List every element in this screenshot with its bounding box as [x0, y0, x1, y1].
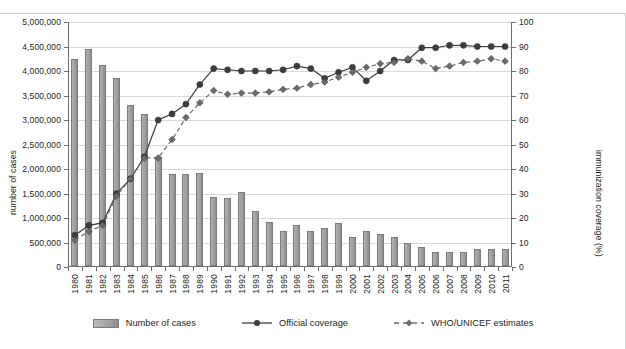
- x-tick: [346, 267, 347, 271]
- x-tick: [124, 267, 125, 271]
- data-point-circle: [308, 65, 314, 71]
- legend-label-official: Official coverage: [279, 318, 348, 328]
- x-tick: [151, 267, 152, 271]
- data-point-circle: [502, 43, 508, 49]
- x-tick: [68, 267, 69, 271]
- plot-area: 0500,0001,000,0001,500,0002,000,0002,500…: [68, 22, 512, 267]
- x-tick-label: 1982: [98, 274, 108, 294]
- y-tick-right: [512, 47, 516, 48]
- x-tick: [318, 267, 319, 271]
- x-tick-label: 1989: [195, 274, 205, 294]
- data-point-diamond: [307, 81, 314, 88]
- data-point-circle: [446, 42, 452, 48]
- data-point-circle: [252, 68, 258, 74]
- x-tick: [512, 267, 513, 271]
- legend-item-whounicef: WHO/UNICEF estimates: [394, 318, 533, 328]
- data-point-diamond: [238, 90, 245, 97]
- x-tick: [429, 267, 430, 271]
- x-tick-label: 2002: [376, 274, 386, 294]
- x-tick-label: 1986: [154, 274, 164, 294]
- y-tick-right: [512, 96, 516, 97]
- x-tick-label: 2005: [417, 274, 427, 294]
- y-tick-label-left: 4,000,000: [22, 66, 61, 76]
- y-tick-right: [512, 243, 516, 244]
- data-point-circle: [224, 67, 230, 73]
- x-tick-label: 1999: [334, 274, 344, 294]
- chart-legend: Number of cases Official coverage WHO/UN…: [0, 318, 626, 328]
- x-tick: [304, 267, 305, 271]
- data-point-circle: [363, 78, 369, 84]
- x-tick: [332, 267, 333, 271]
- y-tick-label-right: 30: [519, 189, 529, 199]
- data-point-circle: [294, 63, 300, 69]
- y-tick-label-left: 1,000,000: [22, 213, 61, 223]
- x-tick: [457, 267, 458, 271]
- x-tick-label: 1987: [168, 274, 178, 294]
- x-tick-label: 1981: [84, 274, 94, 294]
- x-tick: [415, 267, 416, 271]
- data-point-circle: [377, 68, 383, 74]
- x-tick-label: 1984: [126, 274, 136, 294]
- y-tick-label-right: 100: [519, 17, 533, 27]
- data-point-diamond: [85, 228, 92, 235]
- x-tick-label: 1991: [223, 274, 233, 294]
- data-point-circle: [488, 43, 494, 49]
- data-point-diamond: [432, 65, 439, 72]
- y-tick-label-left: 2,500,000: [22, 140, 61, 150]
- y-tick-label-right: 40: [519, 164, 529, 174]
- x-tick-label: 2004: [403, 274, 413, 294]
- data-point-circle: [460, 42, 466, 48]
- legend-item-cases: Number of cases: [93, 318, 196, 328]
- data-point-diamond: [280, 86, 287, 93]
- data-point-diamond: [294, 85, 301, 92]
- x-tick-label: 2006: [431, 274, 441, 294]
- figure-container: number of cases immunization coverage (%…: [0, 0, 626, 349]
- x-tick: [498, 267, 499, 271]
- y-tick-label-left: 2,000,000: [22, 164, 61, 174]
- data-point-circle: [155, 117, 161, 123]
- x-tick-label: 1985: [140, 274, 150, 294]
- data-point-diamond: [72, 237, 79, 244]
- data-point-circle: [474, 43, 480, 49]
- data-point-diamond: [474, 58, 481, 65]
- x-tick: [359, 267, 360, 271]
- x-tick-label: 2007: [445, 274, 455, 294]
- x-tick: [470, 267, 471, 271]
- y-tick-right: [512, 218, 516, 219]
- y-axis-title-right: immunization coverage (%): [594, 150, 604, 257]
- line-series: [68, 22, 512, 267]
- data-point-circle: [86, 222, 92, 228]
- y-tick-label-left: 3,000,000: [22, 115, 61, 125]
- x-tick-label: 1994: [265, 274, 275, 294]
- x-tick-label: 1995: [279, 274, 289, 294]
- legend-swatch-official-line: [242, 318, 272, 328]
- x-tick-label: 1980: [70, 274, 80, 294]
- y-tick-label-right: 60: [519, 115, 529, 125]
- data-point-circle: [183, 101, 189, 107]
- x-tick: [179, 267, 180, 271]
- y-tick-right: [512, 194, 516, 195]
- data-point-diamond: [335, 74, 342, 81]
- plot-frame: 0500,0001,000,0001,500,0002,000,0002,500…: [68, 22, 512, 267]
- x-tick: [484, 267, 485, 271]
- x-tick-label: 1988: [181, 274, 191, 294]
- data-point-diamond: [377, 60, 384, 67]
- data-point-diamond: [418, 58, 425, 65]
- y-tick-label-right: 10: [519, 238, 529, 248]
- x-tick-label: 2008: [459, 274, 469, 294]
- x-tick: [387, 267, 388, 271]
- y-tick-right: [512, 120, 516, 121]
- y-tick-label-right: 0: [519, 262, 524, 272]
- data-point-diamond: [183, 114, 190, 121]
- top-rule: [0, 13, 626, 14]
- data-point-circle: [169, 111, 175, 117]
- x-tick: [235, 267, 236, 271]
- x-tick-label: 1997: [306, 274, 316, 294]
- data-point-circle: [197, 81, 203, 87]
- data-point-diamond: [488, 55, 495, 62]
- x-tick: [82, 267, 83, 271]
- y-tick-label-right: 20: [519, 213, 529, 223]
- data-point-diamond: [460, 59, 467, 66]
- legend-label-whounicef: WHO/UNICEF estimates: [431, 318, 533, 328]
- data-point-circle: [433, 45, 439, 51]
